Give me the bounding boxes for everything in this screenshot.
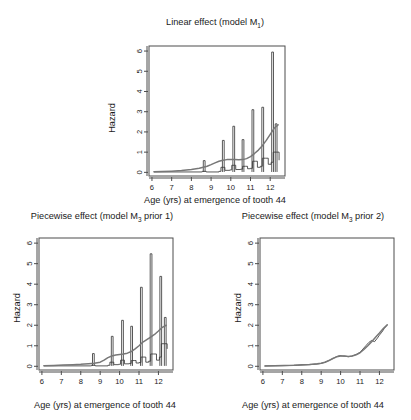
- x-tick-label: 7: [59, 377, 63, 386]
- x-ticks-bl: 6789101112: [40, 371, 163, 386]
- chart-title-bl-main: Piecewise effect (model M: [31, 211, 138, 221]
- y-axis-label-bl: Hazard: [12, 293, 22, 323]
- y-tick-label: 0: [136, 170, 145, 174]
- chart-title-bl: Piecewise effect (model M3 prior 1): [31, 211, 173, 223]
- plot-box-bl: [39, 238, 173, 370]
- chart-title-br: Piecewise effect (model M3 prior 2): [242, 211, 384, 223]
- y-ticks-br: 0123456: [247, 241, 260, 368]
- x-tick-label: 9: [98, 377, 102, 386]
- y-tick-label: 6: [26, 241, 35, 245]
- y-tick-label: 1: [26, 344, 35, 348]
- step-series-bl: [44, 254, 167, 366]
- chart-panel-piecewise-prior1: Piecewise effect (model M3 prior 1) Haza…: [0, 205, 205, 420]
- y-tick-label: 6: [247, 241, 256, 245]
- y-axis-top: 0123456: [136, 46, 149, 176]
- y-ticks-top: 0123456: [136, 49, 149, 175]
- x-tick-label: 11: [135, 377, 143, 386]
- figure-root: Linear effect (model M1) Hazard Age (yrs…: [0, 0, 411, 420]
- chart-svg-br: Piecewise effect (model M3 prior 2) Haza…: [205, 205, 411, 420]
- x-tick-label: 10: [115, 377, 123, 386]
- y-tick-label: 4: [136, 89, 145, 93]
- x-tick-label: 8: [189, 183, 193, 192]
- chart-title-top-tail: ): [261, 17, 264, 27]
- x-tick-label: 11: [247, 183, 255, 192]
- x-ticks-top: 6789101112: [150, 177, 275, 192]
- x-axis-label-top: Age (yrs) at emergence of tooth 44: [144, 195, 286, 205]
- x-axis-br: 6789101112: [260, 371, 394, 386]
- chart-panel-linear-effect: Linear effect (model M1) Hazard Age (yrs…: [95, 8, 335, 208]
- chart-svg-top: Linear effect (model M1) Hazard Age (yrs…: [95, 8, 335, 208]
- chart-panel-piecewise-prior2: Piecewise effect (model M3 prior 2) Haza…: [205, 205, 411, 420]
- x-tick-label: 6: [261, 377, 265, 386]
- y-tick-label: 0: [26, 364, 35, 368]
- chart-svg-bl: Piecewise effect (model M3 prior 1) Haza…: [0, 205, 205, 420]
- x-tick-label: 6: [150, 183, 154, 192]
- chart-title-bl-tail: prior 1): [141, 211, 173, 221]
- plot-box-br: [260, 238, 394, 370]
- y-tick-label: 3: [247, 303, 256, 307]
- y-tick-label: 1: [136, 150, 145, 154]
- smooth-series-top: [154, 125, 278, 172]
- y-axis-label-br: Hazard: [233, 293, 243, 323]
- smooth-series-bl: [44, 325, 166, 365]
- smooth-series-br: [265, 325, 387, 366]
- y-tick-label: 0: [247, 364, 256, 368]
- y-ticks-bl: 0123456: [26, 241, 39, 368]
- y-axis-br: 0123456: [247, 238, 260, 370]
- y-tick-label: 4: [26, 282, 35, 286]
- x-tick-label: 12: [266, 183, 274, 192]
- y-axis-bl: 0123456: [26, 238, 39, 370]
- x-tick-label: 7: [170, 183, 174, 192]
- x-ticks-br: 6789101112: [261, 371, 384, 386]
- x-tick-label: 9: [209, 183, 213, 192]
- chart-title-br-tail: prior 2): [352, 211, 384, 221]
- plot-area-top: [154, 52, 279, 172]
- y-tick-label: 6: [136, 49, 145, 53]
- plot-area-bl: [44, 254, 167, 366]
- y-tick-label: 5: [26, 262, 35, 266]
- y-tick-label: 5: [247, 262, 256, 266]
- y-tick-label: 3: [26, 303, 35, 307]
- x-tick-label: 8: [300, 377, 304, 386]
- x-axis-bl: 6789101112: [39, 371, 173, 386]
- chart-title-br-main: Piecewise effect (model M: [242, 211, 349, 221]
- x-tick-label: 11: [356, 377, 364, 386]
- x-tick-label: 10: [336, 377, 344, 386]
- y-tick-label: 2: [136, 130, 145, 134]
- y-tick-label: 2: [26, 323, 35, 327]
- chart-title-top-main: Linear effect (model M: [166, 17, 257, 27]
- x-tick-label: 9: [319, 377, 323, 386]
- y-tick-label: 5: [136, 69, 145, 73]
- x-tick-label: 12: [375, 377, 383, 386]
- y-tick-label: 1: [247, 344, 256, 348]
- y-tick-label: 2: [247, 323, 256, 327]
- x-tick-label: 10: [227, 183, 235, 192]
- y-tick-label: 3: [136, 110, 145, 114]
- x-axis-top: 6789101112: [149, 177, 285, 192]
- x-tick-label: 8: [79, 377, 83, 386]
- x-tick-label: 6: [40, 377, 44, 386]
- y-tick-label: 4: [247, 282, 256, 286]
- x-axis-label-bl: Age (yrs) at emergence of tooth 44: [34, 400, 176, 410]
- plot-area-br: [265, 325, 387, 366]
- x-tick-label: 7: [280, 377, 284, 386]
- chart-title-top: Linear effect (model M1): [166, 17, 264, 29]
- step-series-top: [154, 52, 279, 172]
- plot-box-top: [149, 46, 285, 176]
- y-axis-label-top: Hazard: [107, 103, 117, 133]
- x-tick-label: 12: [154, 377, 162, 386]
- x-axis-label-br: Age (yrs) at emergence of tooth 44: [242, 400, 384, 410]
